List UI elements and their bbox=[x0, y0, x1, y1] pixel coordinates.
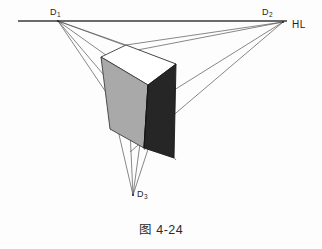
vp-d1-letter: D bbox=[50, 7, 57, 17]
vanishing-point-label-d3: D3 bbox=[137, 190, 147, 199]
vanishing-point-d3-marker bbox=[132, 194, 134, 196]
construction-line bbox=[126, 22, 283, 45]
vanishing-point-label-d2: D2 bbox=[262, 8, 272, 17]
vp-d2-letter: D bbox=[262, 7, 269, 17]
figure-container: D1 D2 D3 HL 图 4-24 bbox=[0, 0, 322, 249]
perspective-diagram bbox=[0, 0, 322, 249]
vanishing-point-d2-marker bbox=[282, 21, 284, 23]
vanishing-point-label-d1: D1 bbox=[50, 8, 60, 17]
figure-caption: 图 4-24 bbox=[0, 219, 322, 238]
vp-d1-subscript: 1 bbox=[57, 11, 61, 18]
vp-d3-subscript: 3 bbox=[144, 193, 148, 200]
vp-d2-subscript: 2 bbox=[269, 11, 273, 18]
vanishing-point-d1-marker bbox=[57, 20, 59, 22]
horizon-line-label: HL bbox=[292, 20, 306, 30]
vp-d3-letter: D bbox=[137, 189, 144, 199]
